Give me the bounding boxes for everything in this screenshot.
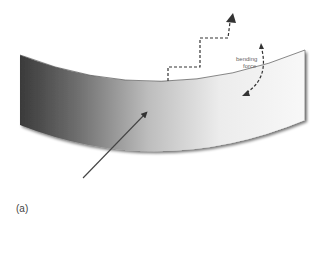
curved-beam bbox=[20, 50, 305, 151]
bending-force-label-line1: bending bbox=[236, 56, 257, 62]
panel-label: (a) bbox=[16, 203, 28, 214]
bending-force-label-line2: force bbox=[243, 63, 257, 69]
bending-beam-diagram: bending force (a) bbox=[0, 0, 323, 267]
stepped-dashed-arrow bbox=[168, 13, 236, 81]
